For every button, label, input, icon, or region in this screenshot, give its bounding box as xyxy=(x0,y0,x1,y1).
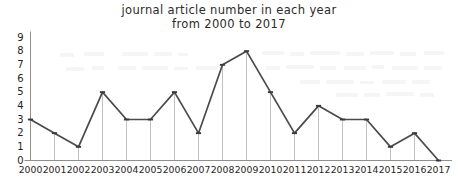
y-tick-label-7: 7 xyxy=(12,60,24,70)
y-tick-label-6: 6 xyxy=(12,74,24,84)
y-tick-label-2: 2 xyxy=(12,128,24,138)
y-tick-label-8: 8 xyxy=(12,46,24,56)
chart-figure: journal article number in each year from… xyxy=(0,0,458,178)
x-tick-label-2008: 2008 xyxy=(210,165,236,175)
x-tick-label-2013: 2013 xyxy=(330,165,356,175)
x-tick-label-2005: 2005 xyxy=(138,165,164,175)
plot-area: 2000: 32001: 22002: 12003: 52004: 32005:… xyxy=(0,0,458,178)
y-tick-label-5: 5 xyxy=(12,87,24,97)
x-tick-label-2004: 2004 xyxy=(114,165,140,175)
y-tick-label-4: 4 xyxy=(12,101,24,111)
x-tick-label-2006: 2006 xyxy=(162,165,188,175)
x-tick-label-2012: 2012 xyxy=(306,165,332,175)
x-tick-label-2001: 2001 xyxy=(42,165,68,175)
x-tick-label-2009: 2009 xyxy=(234,165,260,175)
axes-group xyxy=(25,32,453,161)
markers-group: 2000: 32001: 22002: 12003: 52004: 32005:… xyxy=(28,51,441,160)
y-tick-label-3: 3 xyxy=(12,115,24,125)
x-tick-label-2016: 2016 xyxy=(402,165,428,175)
y-tick-label-9: 9 xyxy=(12,33,24,43)
droplines-group xyxy=(31,51,415,160)
x-tick-label-2000: 2000 xyxy=(18,165,44,175)
x-tick-label-2017: 2017 xyxy=(426,165,452,175)
x-tick-label-2015: 2015 xyxy=(378,165,404,175)
x-tick-label-2011: 2011 xyxy=(282,165,308,175)
x-tick-label-2007: 2007 xyxy=(186,165,212,175)
series-line-journal-article-number xyxy=(31,51,439,160)
x-tick-label-2010: 2010 xyxy=(258,165,284,175)
x-tick-label-2002: 2002 xyxy=(66,165,92,175)
y-tick-label-1: 1 xyxy=(12,142,24,152)
x-tick-label-2003: 2003 xyxy=(90,165,116,175)
x-tick-label-2014: 2014 xyxy=(354,165,380,175)
